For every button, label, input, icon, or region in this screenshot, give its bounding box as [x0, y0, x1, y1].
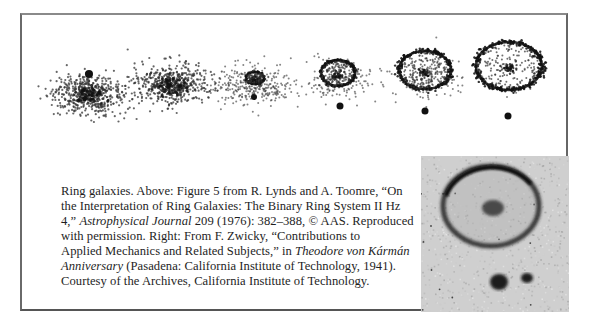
- companion-blob: [490, 274, 508, 290]
- caption-line: Anniversary (Pasadena: California Instit…: [61, 259, 411, 274]
- companion-galaxy: [422, 108, 429, 115]
- ring-galaxy-photograph: [421, 156, 569, 312]
- companion-galaxy: [505, 113, 512, 120]
- caption-line: Ring galaxies. Above: Figure 5 from R. L…: [61, 184, 411, 199]
- caption-line: with permission. Right: From F. Zwicky, …: [61, 229, 411, 244]
- galaxy-sequence: [37, 37, 547, 124]
- ring-galaxy-simulation-figure: [22, 15, 568, 150]
- galaxy-stage-3: [202, 55, 307, 116]
- companion-galaxy: [85, 70, 93, 78]
- caption-line: Courtesy of the Archives, California Ins…: [61, 274, 411, 289]
- galaxy-stage-4: [284, 53, 384, 110]
- galaxy-stage-1: [37, 64, 137, 123]
- galaxy-stage-6: [471, 39, 547, 120]
- figure-caption: Ring galaxies. Above: Figure 5 from R. L…: [61, 184, 411, 289]
- caption-line: the Interpretation of Ring Galaxies: The…: [61, 199, 411, 214]
- caption-line: 4,” Astrophysical Journal 209 (1976): 38…: [61, 214, 411, 229]
- caption-line: Applied Mechanics and Related Subjects,”…: [61, 244, 411, 259]
- companion-galaxy: [251, 94, 257, 100]
- companion-blob: [521, 273, 533, 283]
- companion-galaxy: [337, 103, 344, 110]
- galaxy-stage-5: [374, 37, 483, 115]
- galaxy-stage-2: [117, 48, 230, 114]
